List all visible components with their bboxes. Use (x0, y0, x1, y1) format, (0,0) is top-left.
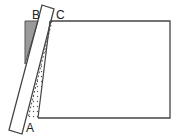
main-rectangle (38, 21, 170, 118)
label-b: B (32, 8, 40, 22)
label-c: C (56, 8, 65, 22)
fold-diagram: B C A (0, 0, 176, 135)
label-a: A (26, 121, 34, 135)
